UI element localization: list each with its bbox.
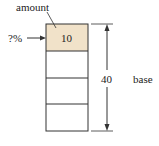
amount-value: 10 [61,32,72,44]
arrow-right-icon [27,36,46,41]
percent-label: ?% [8,32,22,44]
amount-label: amount [16,1,49,13]
base-label: base [133,73,153,85]
base-value: 40 [101,72,112,86]
